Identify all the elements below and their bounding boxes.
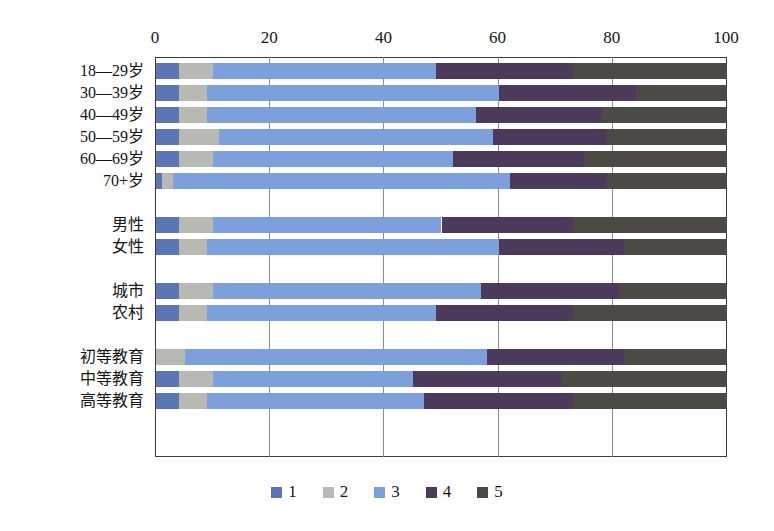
bar-row — [156, 151, 726, 167]
bar-segment — [584, 151, 727, 167]
bar-segment — [156, 129, 179, 145]
bar-segment — [493, 129, 607, 145]
bar-segment — [573, 63, 727, 79]
bar-segment — [179, 305, 208, 321]
bar-row — [156, 371, 726, 387]
bar-row — [156, 173, 726, 189]
bar-segment — [487, 349, 624, 365]
bar-segment — [624, 349, 727, 365]
bar-row — [156, 283, 726, 299]
bar-segment — [510, 173, 607, 189]
category-label: 70+岁 — [0, 172, 150, 190]
category-label: 农村 — [0, 304, 150, 322]
bar-segment — [213, 63, 436, 79]
category-label: 高等教育 — [0, 392, 150, 410]
category-label: 60—69岁 — [0, 150, 150, 168]
x-tick-label: 80 — [603, 28, 620, 48]
bar-segment — [636, 85, 727, 101]
category-label: 女性 — [0, 238, 150, 256]
bar-segment — [442, 217, 573, 233]
bar-segment — [179, 371, 213, 387]
bar-segment — [573, 305, 727, 321]
bar-segment — [156, 393, 179, 409]
x-tick-label: 20 — [261, 28, 278, 48]
bar-row — [156, 239, 726, 255]
bar-segment — [156, 63, 179, 79]
bar-row — [156, 129, 726, 145]
axis-line-bottom — [155, 456, 727, 457]
bar-segment — [156, 107, 179, 123]
bar-segment — [179, 217, 213, 233]
bar-segment — [156, 349, 185, 365]
legend-item[interactable]: 2 — [323, 483, 349, 501]
bar-segment — [436, 305, 573, 321]
bar-segment — [162, 173, 173, 189]
bar-segment — [213, 283, 481, 299]
bar-row — [156, 305, 726, 321]
legend-label: 5 — [494, 483, 503, 501]
bar-segment — [156, 85, 179, 101]
bar-segment — [219, 129, 493, 145]
bar-segment — [619, 283, 727, 299]
bar-segment — [453, 151, 584, 167]
category-label: 18—29岁 — [0, 62, 150, 80]
category-label: 男性 — [0, 216, 150, 234]
legend-swatch-icon — [477, 487, 488, 498]
bar-segment — [476, 107, 602, 123]
bar-segment — [185, 349, 488, 365]
legend-item[interactable]: 4 — [426, 483, 452, 501]
bar-segment — [179, 85, 208, 101]
category-label: 50—59岁 — [0, 128, 150, 146]
bar-segment — [179, 107, 208, 123]
bar-segment — [207, 239, 498, 255]
bar-segment — [624, 239, 727, 255]
bar-segment — [179, 129, 219, 145]
bar-segment — [207, 393, 424, 409]
legend-item[interactable]: 3 — [374, 483, 400, 501]
bar-segment — [179, 151, 213, 167]
bar-segment — [207, 107, 475, 123]
bar-row — [156, 63, 726, 79]
plot-area — [155, 57, 727, 457]
bar-segment — [424, 393, 572, 409]
x-tick-label: 100 — [713, 28, 739, 48]
chart-legend: 12345 — [0, 483, 774, 501]
bar-segment — [573, 393, 727, 409]
bar-segment — [499, 239, 625, 255]
stacked-bar-chart: 020406080100 18—29岁30—39岁40—49岁50—59岁60—… — [0, 0, 774, 531]
legend-label: 1 — [288, 483, 297, 501]
bar-segment — [499, 85, 636, 101]
x-tick-label: 40 — [375, 28, 392, 48]
bar-segment — [607, 129, 727, 145]
bar-row — [156, 393, 726, 409]
category-label: 30—39岁 — [0, 84, 150, 102]
bar-segment — [179, 283, 213, 299]
bar-segment — [207, 85, 498, 101]
category-label: 中等教育 — [0, 370, 150, 388]
bar-segment — [179, 393, 208, 409]
x-tick-label: 0 — [151, 28, 160, 48]
bar-segment — [179, 63, 213, 79]
bar-row — [156, 107, 726, 123]
legend-swatch-icon — [426, 487, 437, 498]
bar-segment — [573, 217, 727, 233]
x-axis-tick-labels: 020406080100 — [0, 28, 774, 52]
bar-row — [156, 217, 726, 233]
bar-segment — [156, 217, 179, 233]
legend-swatch-icon — [374, 487, 385, 498]
bar-segment — [213, 371, 413, 387]
bar-row — [156, 349, 726, 365]
category-label: 城市 — [0, 282, 150, 300]
bar-row — [156, 85, 726, 101]
legend-item[interactable]: 5 — [477, 483, 503, 501]
axis-line-top — [155, 57, 727, 58]
bar-segment — [436, 63, 573, 79]
bar-segment — [213, 217, 441, 233]
bar-segment — [213, 151, 453, 167]
bar-segment — [156, 283, 179, 299]
bar-segment — [156, 371, 179, 387]
category-label: 初等教育 — [0, 348, 150, 366]
legend-item[interactable]: 1 — [271, 483, 297, 501]
bar-segment — [607, 173, 727, 189]
bar-segment — [561, 371, 727, 387]
